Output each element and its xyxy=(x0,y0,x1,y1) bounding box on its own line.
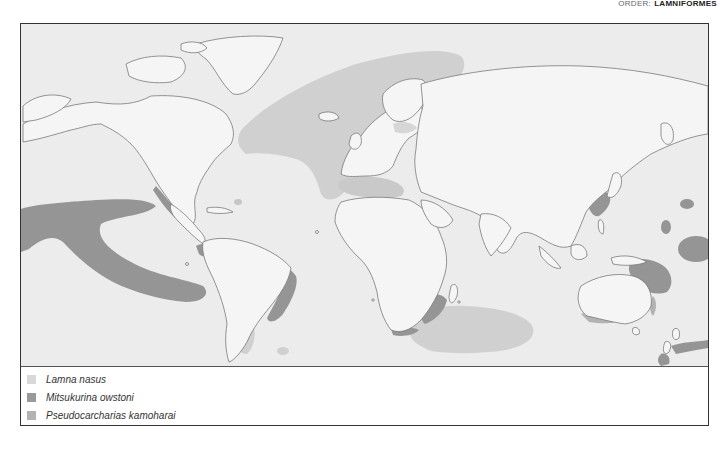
range-mitsukurina-pacific xyxy=(661,220,671,234)
map-legend: Lamna nasus Mitsukurina owstoni Pseudoca… xyxy=(21,369,708,425)
land-arctic-islands xyxy=(126,56,185,83)
legend-item-mitsukurina-owstoni: Mitsukurina owstoni xyxy=(27,389,134,405)
legend-item-pseudocarcharias-kamoharai: Pseudocarcharias kamoharai xyxy=(27,407,176,423)
land-island xyxy=(186,263,189,266)
world-map xyxy=(21,24,708,366)
legend-divider xyxy=(21,366,708,367)
land-tasmania xyxy=(632,327,639,334)
legend-swatch-mitsukurina-owstoni xyxy=(27,393,36,402)
order-label: ORDER: xyxy=(618,0,651,8)
range-mitsukurina-pacific xyxy=(680,199,694,209)
legend-item-lamna-nasus: Lamna nasus xyxy=(27,371,106,387)
order-header: ORDER:LAMNIFORMES xyxy=(618,0,717,10)
range-map-figure: Lamna nasus Mitsukurina owstoni Pseudoca… xyxy=(20,23,709,426)
legend-label: Pseudocarcharias kamoharai xyxy=(46,410,176,421)
world-map-graphic xyxy=(21,24,708,366)
legend-label: Mitsukurina owstoni xyxy=(46,392,134,403)
legend-label: Lamna nasus xyxy=(46,374,106,385)
range-lamna-nasus-patch xyxy=(277,347,289,355)
land-new-zealand xyxy=(672,328,679,339)
range-lamna-nasus-patch xyxy=(234,199,242,205)
land-island xyxy=(316,231,319,234)
land-australia xyxy=(578,274,651,324)
land-british-isles xyxy=(349,133,361,149)
order-name: LAMNIFORMES xyxy=(654,0,717,8)
legend-swatch-pseudocarcharias-kamoharai xyxy=(27,411,36,420)
legend-swatch-lamna-nasus xyxy=(27,375,36,384)
land-new-zealand xyxy=(663,341,670,353)
land-island xyxy=(458,301,460,303)
land-island xyxy=(372,299,374,301)
